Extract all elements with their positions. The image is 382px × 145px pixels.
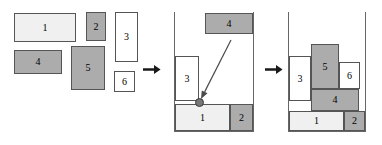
final-rect-6: 6 (339, 62, 360, 89)
final-rect-5: 5 (311, 44, 339, 89)
final-rect-1: 1 (289, 111, 344, 131)
rect-label: 3 (298, 74, 303, 84)
packing-figure: 1 2 3 4 5 6 3 1 2 4 (0, 0, 382, 145)
panel-packing-complete: 3 5 6 4 1 2 (0, 0, 382, 145)
final-rect-4: 4 (311, 89, 359, 111)
final-rect-3: 3 (289, 56, 311, 101)
final-rect-2: 2 (344, 111, 365, 131)
rect-label: 4 (333, 95, 338, 105)
rect-label: 1 (314, 116, 319, 126)
rect-label: 6 (347, 71, 352, 81)
rect-label: 2 (352, 116, 357, 126)
rect-label: 5 (323, 62, 328, 72)
